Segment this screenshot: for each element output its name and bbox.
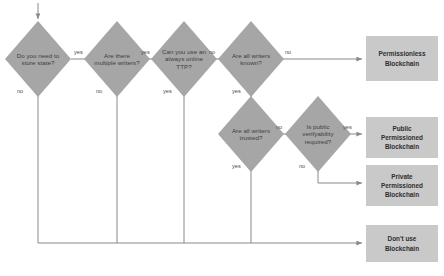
terminal-label: Permissionless Blockchain bbox=[372, 49, 432, 68]
edge-label-public-verif-no: no bbox=[299, 163, 305, 169]
decision-label: Are all writers known? bbox=[227, 52, 276, 67]
decision-label: Can you use an always online TTP? bbox=[160, 48, 209, 70]
edge-label-writers-known-yes: yes bbox=[232, 88, 241, 94]
decision-always-online-ttp[interactable]: Can you use an always online TTP? bbox=[151, 21, 217, 97]
decision-writers-trusted[interactable]: Are all writers trusted? bbox=[218, 96, 284, 172]
decision-label: Do you need to store state? bbox=[14, 52, 63, 67]
terminal-dont-use-blockchain[interactable]: Don't use Blockchain bbox=[366, 225, 438, 262]
edge-label-multiple-writers-yes: yes bbox=[141, 49, 150, 55]
edge-label-store-state-no: no bbox=[17, 88, 23, 94]
flowchart-canvas: Do you need to store state? Are there mu… bbox=[0, 0, 444, 276]
decision-label: Is public verifyability required? bbox=[294, 123, 343, 145]
decision-public-verifyability[interactable]: Is public verifyability required? bbox=[285, 96, 351, 172]
decision-label: Are there multiple writers? bbox=[93, 52, 142, 67]
edge-label-writers-trusted-yes: yes bbox=[232, 163, 241, 169]
terminal-label: Public Permissioned Blockchain bbox=[372, 124, 432, 152]
terminal-permissionless-blockchain[interactable]: Permissionless Blockchain bbox=[366, 36, 438, 81]
edge-label-writers-trusted-no: no bbox=[276, 124, 282, 130]
terminal-public-permissioned-blockchain[interactable]: Public Permissioned Blockchain bbox=[366, 117, 438, 158]
edge-label-multiple-writers-no: no bbox=[96, 88, 102, 94]
edge-label-store-state-yes: yes bbox=[74, 49, 83, 55]
edge-label-public-verif-yes: yes bbox=[343, 124, 352, 130]
terminal-label: Private Permissioned Blockchain bbox=[372, 172, 432, 200]
terminal-label: Don't use Blockchain bbox=[372, 234, 432, 253]
edge-label-ttp-no: no bbox=[209, 49, 215, 55]
decision-writers-known[interactable]: Are all writers known? bbox=[218, 21, 284, 97]
decision-label: Are all writers trusted? bbox=[227, 127, 276, 142]
terminal-private-permissioned-blockchain[interactable]: Private Permissioned Blockchain bbox=[366, 165, 438, 206]
decision-store-state[interactable]: Do you need to store state? bbox=[5, 21, 71, 97]
edge-label-ttp-yes: yes bbox=[163, 88, 172, 94]
decision-multiple-writers[interactable]: Are there multiple writers? bbox=[84, 21, 150, 97]
edge-label-writers-known-no: no bbox=[285, 49, 291, 55]
